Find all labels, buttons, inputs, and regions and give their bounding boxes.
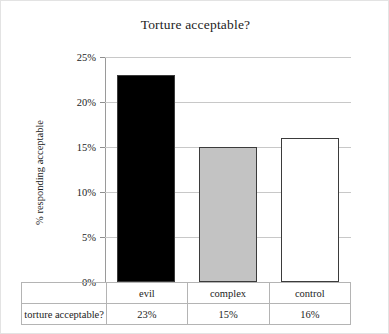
y-tick-mark bbox=[100, 237, 105, 238]
y-tick-mark bbox=[100, 102, 105, 103]
chart-title: Torture acceptable? bbox=[1, 17, 389, 33]
table-header-complex: complex bbox=[187, 283, 269, 304]
y-tick-mark bbox=[100, 57, 105, 58]
y-tick-label: 10% bbox=[26, 187, 96, 198]
table-header-control: control bbox=[269, 283, 350, 304]
table-value-evil: 23% bbox=[107, 304, 187, 325]
data-table: evil complex control torture acceptable?… bbox=[21, 282, 351, 325]
y-tick-label: 5% bbox=[26, 232, 96, 243]
y-tick-label: 20% bbox=[26, 97, 96, 108]
chart-figure: Torture acceptable? % responding accepta… bbox=[0, 0, 389, 334]
table-corner-cell bbox=[22, 283, 107, 304]
bar-complex bbox=[199, 147, 257, 282]
y-tick-mark bbox=[100, 192, 105, 193]
plot-area bbox=[105, 57, 351, 282]
table-row-values: torture acceptable? 23% 15% 16% bbox=[22, 304, 351, 325]
bar-control bbox=[281, 138, 339, 282]
y-tick-label: 15% bbox=[26, 142, 96, 153]
gridline-25pct bbox=[105, 57, 351, 58]
table-value-control: 16% bbox=[269, 304, 350, 325]
table-row-label: torture acceptable? bbox=[22, 304, 107, 325]
table-row-categories: evil complex control bbox=[22, 283, 351, 304]
table-header-evil: evil bbox=[107, 283, 187, 304]
bar-evil bbox=[117, 75, 175, 282]
table-value-complex: 15% bbox=[187, 304, 269, 325]
y-tick-mark bbox=[100, 147, 105, 148]
y-tick-label: 25% bbox=[26, 52, 96, 63]
